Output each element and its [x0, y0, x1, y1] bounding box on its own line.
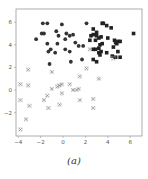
plot-frame [16, 9, 142, 136]
circle-point [34, 37, 38, 41]
y-tick-label: 0 [9, 87, 13, 93]
square-point [116, 50, 120, 54]
figure-caption: (a) [0, 155, 148, 166]
square-point [88, 38, 92, 42]
y-tick-label: 6 [9, 19, 13, 25]
circle-point [68, 34, 72, 38]
circle-point [41, 21, 45, 25]
square-point [118, 40, 122, 44]
square-point [97, 46, 101, 50]
circle-point [57, 34, 61, 38]
square-point [91, 33, 95, 37]
square-point [105, 51, 109, 55]
circle-point [48, 62, 52, 66]
scatter-plot: −4−20246 −20246 [0, 0, 148, 150]
x-tick-label: −4 [14, 139, 23, 145]
y-tick-label: −2 [4, 110, 12, 116]
square-point [95, 31, 99, 35]
circle-point [77, 44, 81, 48]
circle-point [42, 32, 46, 36]
circle-point [63, 47, 67, 51]
square-point [99, 35, 103, 39]
y-axis-ticks: −20246 [4, 19, 16, 115]
x-tick-label: 0 [61, 139, 65, 145]
circle-point [45, 42, 49, 46]
circle-point [45, 21, 49, 25]
x-tick-label: 4 [106, 139, 110, 145]
y-tick-label: 2 [9, 64, 13, 70]
circle-point [81, 44, 85, 48]
circle-point [85, 21, 89, 25]
circle-point [69, 60, 73, 64]
circle-point [60, 23, 64, 27]
square-point [114, 41, 118, 45]
circle-point [73, 41, 77, 45]
x-tick-label: 2 [84, 139, 88, 145]
square-point [100, 42, 104, 46]
circle-point [71, 33, 75, 37]
square-point [132, 32, 136, 36]
circle-point [56, 42, 60, 46]
circle-point [63, 37, 67, 41]
square-point [112, 45, 116, 49]
square-point [94, 38, 98, 42]
x-tick-label: −2 [37, 139, 45, 145]
x-axis-ticks: −4−20246 [14, 136, 132, 145]
square-point [94, 48, 98, 52]
square-point [91, 58, 95, 62]
square-point [95, 60, 99, 64]
circle-point [64, 32, 68, 36]
square-point [102, 22, 106, 26]
square-point [109, 26, 113, 30]
square-point [106, 36, 110, 40]
circle-point [80, 58, 84, 62]
circle-point [68, 50, 72, 54]
x-tick-label: 6 [128, 139, 132, 145]
y-tick-label: 4 [9, 42, 13, 48]
square-point [105, 24, 109, 28]
square-point [118, 55, 122, 59]
square-point [91, 27, 95, 31]
square-point [98, 53, 102, 57]
circle-point [47, 50, 51, 54]
circle-point [54, 29, 58, 33]
circle-point [53, 51, 57, 55]
